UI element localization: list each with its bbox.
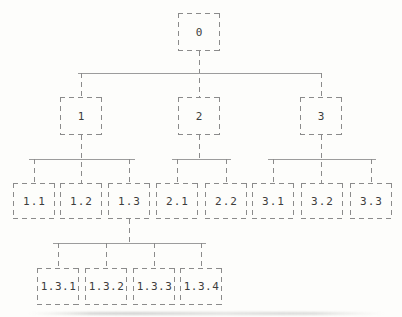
connector-node2-stem: [199, 135, 200, 159]
connector-group1-3-rail: [53, 243, 206, 244]
tree-node-3-3: 3.3: [350, 183, 392, 219]
tree-node-3-1: 3.1: [252, 183, 294, 219]
connector-drop-node1: [81, 73, 82, 97]
connector-drop-node3-3: [371, 159, 372, 183]
page-scan-shadow: [26, 312, 388, 315]
connector-drop-node2-1: [177, 159, 178, 183]
connector-drop-node1-1: [34, 159, 35, 183]
connector-drop-node2-2: [226, 159, 227, 183]
tree-node-1-3-2: 1.3.2: [85, 268, 127, 305]
connector-level1-rail: [78, 73, 322, 74]
tree-node-2-1: 2.1: [156, 183, 198, 219]
connector-group2-rail: [172, 159, 231, 160]
tree-node-1-3-4: 1.3.4: [180, 268, 222, 305]
tree-node-3-2: 3.2: [301, 183, 343, 219]
tree-node-2: 2: [178, 97, 220, 135]
ascii-tree-diagram: 0 1 2 3 1.1 1.2 1.3 2.1 2.2 3.1 3.2 3.3 …: [0, 0, 402, 317]
tree-node-1: 1: [60, 97, 102, 135]
tree-node-1-2: 1.2: [60, 183, 102, 219]
connector-drop-node3: [321, 73, 322, 97]
connector-drop-node1-3-4: [201, 243, 202, 268]
tree-node-1-1: 1.1: [13, 183, 55, 219]
tree-node-1-3: 1.3: [108, 183, 150, 219]
connector-group3-rail: [268, 159, 376, 160]
tree-node-3: 3: [300, 97, 342, 135]
connector-drop-node1-3-3: [154, 243, 155, 268]
tree-node-1-3-3: 1.3.3: [133, 268, 175, 305]
connector-drop-node1-3-2: [106, 243, 107, 268]
tree-node-0: 0: [178, 13, 220, 51]
connector-root-stem: [199, 51, 200, 97]
tree-node-2-2: 2.2: [205, 183, 247, 219]
tree-node-1-3-1: 1.3.1: [37, 268, 79, 305]
connector-drop-node3-1: [273, 159, 274, 183]
connector-drop-node1-3-1: [58, 243, 59, 268]
connector-drop-node1-3: [129, 159, 130, 183]
connector-group1-rail: [29, 159, 135, 160]
connector-node1-3-stem: [129, 219, 130, 243]
